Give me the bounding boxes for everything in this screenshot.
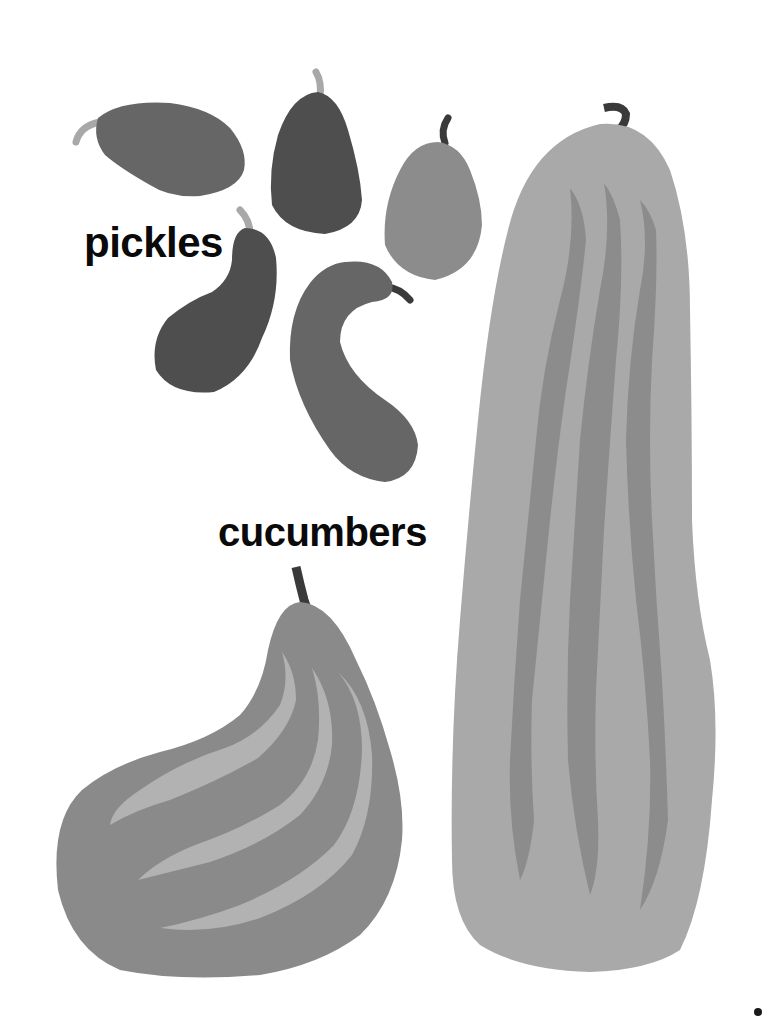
pickle-middle-right — [290, 261, 418, 482]
pickle-top-left — [76, 103, 245, 197]
pickles-label: pickles — [84, 222, 223, 264]
cucumbers-label: cucumbers — [218, 512, 427, 552]
pickle-body — [96, 103, 245, 197]
cucumber-large — [452, 107, 716, 972]
pickle-top-middle — [271, 72, 362, 234]
speck — [754, 1008, 762, 1016]
pickle-top-right — [385, 118, 482, 280]
cucumber-gourd — [56, 567, 402, 978]
pickle-body — [271, 92, 362, 234]
pickle-body — [385, 142, 482, 280]
pickle-stem — [443, 118, 448, 143]
